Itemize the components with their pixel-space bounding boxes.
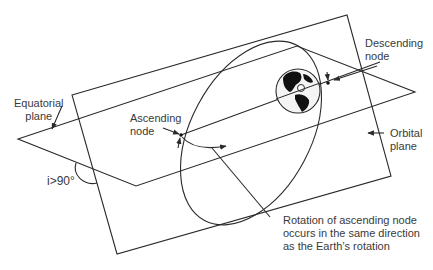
descending-node-label-line2: node <box>365 50 423 63</box>
orbital-plane-label: Orbital plane <box>390 127 422 153</box>
descending-node-point <box>326 81 330 85</box>
equatorial-plane-label: Equatorial plane <box>14 97 64 123</box>
descending-node-label: Descending node <box>365 37 423 63</box>
rotation-note-line1: Rotation of ascending node <box>283 214 420 227</box>
ascending-node-label-line2: node <box>130 125 181 138</box>
descending-node-pointer <box>334 66 377 80</box>
descending-node-label-line1: Descending <box>365 37 423 50</box>
ascending-node-label: Ascending node <box>130 112 181 138</box>
rotation-note-line2: occurs in the same direction <box>283 227 420 240</box>
ascending-node-orbit-arrow <box>178 138 180 148</box>
earth-globe-icon <box>276 69 320 113</box>
orbital-plane-label-line2: plane <box>390 140 422 153</box>
rotation-note-pointer <box>212 148 270 217</box>
orbital-plane-label-line1: Orbital <box>390 127 422 140</box>
node-rotation-arrow <box>182 137 226 148</box>
equatorial-plane-label-line1: Equatorial <box>14 97 64 110</box>
rotation-note-line3: as the Earth’s rotation <box>283 240 420 253</box>
ascending-node-label-line1: Ascending <box>130 112 181 125</box>
descending-node-orbit-arrow <box>327 72 328 80</box>
equatorial-plane-label-line2: plane <box>14 110 64 123</box>
inclination-label: i>90° <box>47 175 75 188</box>
rotation-note: Rotation of ascending node occurs in the… <box>283 214 420 253</box>
